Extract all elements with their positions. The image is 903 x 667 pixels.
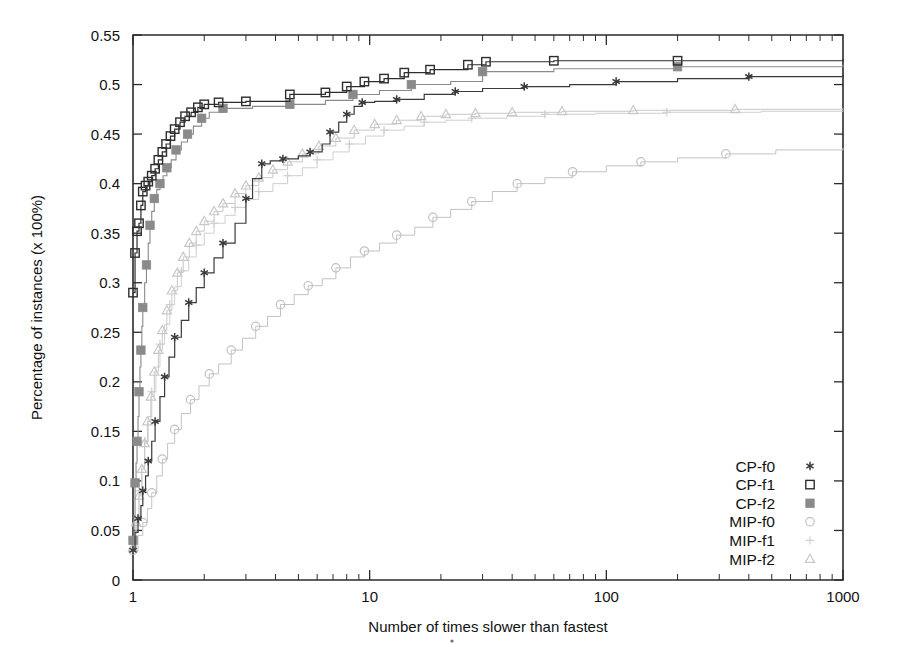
marker-open-triangle [508,107,517,115]
marker-filled-square [142,261,150,269]
legend-label-mip-f2: MIP-f2 [729,551,775,568]
marker-filled-square [349,90,357,98]
marker-open-triangle [730,104,739,112]
legend: CP-f0CP-f1CP-f2MIP-f0MIP-f1MIP-f2 [729,458,814,568]
marker-open-circle [806,518,814,526]
y-tick-label: 0.45 [91,126,120,143]
marker-filled-square [806,499,814,507]
x-tick-label: 100 [594,588,619,605]
marker-plus [283,172,291,180]
marker-filled-square [150,194,158,202]
y-tick-label: 0.3 [99,274,120,291]
marker-plus [313,156,321,164]
marker-filled-square [129,536,137,544]
x-axis-title: Number of times slower than fastest [368,618,608,635]
marker-filled-square [183,130,191,138]
y-tick-label: 0.5 [99,76,120,93]
legend-label-cp-f1: CP-f1 [735,476,775,493]
marker-filled-square [478,67,486,75]
legend-label-mip-f0: MIP-f0 [729,513,775,530]
marker-plus [541,110,549,118]
marker-open-triangle [629,105,638,113]
performance-profile-chart: 00.050.10.150.20.250.30.350.40.450.50.55… [0,0,903,667]
y-tick-label: 0.25 [91,324,120,341]
y-axis-title: Percentage of instances (x 100%) [28,195,45,420]
legend-label-cp-f0: CP-f0 [735,458,775,475]
marker-filled-square [137,346,145,354]
y-tick-label: 0.4 [99,175,120,192]
marker-plus [663,108,671,116]
x-tick-label: 1000 [826,588,859,605]
x-tick-label: 1 [129,588,137,605]
plot-canvas: 00.050.10.150.20.250.30.350.40.450.50.55… [0,0,903,667]
legend-label-cp-f2: CP-f2 [735,495,775,512]
marker-plus [231,203,239,211]
marker-open-triangle [557,106,566,114]
marker-filled-square [156,179,164,187]
y-tick-label: 0.35 [91,225,120,242]
scan-artifact [450,639,453,642]
y-tick-label: 0.2 [99,373,120,390]
marker-filled-square [146,221,154,229]
marker-filled-square [407,80,415,88]
series-cp-f1 [129,57,843,297]
marker-filled-square [133,437,141,445]
y-tick-label: 0.55 [91,27,120,44]
series-mip-f0 [129,148,843,555]
marker-asterisk [806,462,813,470]
x-tick-label: 10 [361,588,378,605]
marker-filled-square [172,146,180,154]
marker-open-square [806,480,814,488]
y-tick-label: 0.15 [91,423,120,440]
marker-filled-square [131,479,139,487]
marker-filled-square [135,388,143,396]
marker-filled-square [163,164,171,172]
marker-filled-square [197,114,205,122]
marker-open-triangle [805,554,814,562]
y-tick-label: 0.05 [91,522,120,539]
marker-filled-square [139,303,147,311]
legend-label-mip-f1: MIP-f1 [729,532,775,549]
curve-cp-f1 [133,59,843,293]
marker-plus [345,140,353,148]
y-tick-label: 0 [112,572,120,589]
marker-plus [380,126,388,134]
y-tick-label: 0.1 [99,472,120,489]
marker-plus [255,187,263,195]
marker-plus [806,536,814,544]
marker-filled-square [673,63,681,71]
